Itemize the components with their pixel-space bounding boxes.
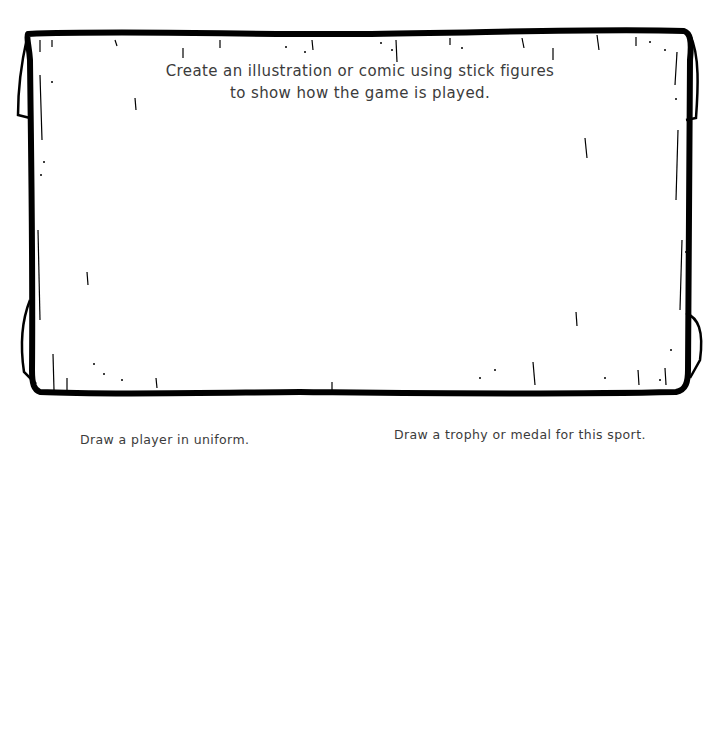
trophy-drawing-area [372, 408, 690, 712]
top-prompt-line-2: to show how the game is played. [0, 82, 720, 104]
top-prompt-line-1: Create an illustration or comic using st… [0, 60, 720, 82]
top-panel-prompt: Create an illustration or comic using st… [0, 60, 720, 104]
player-panel-prompt: Draw a player in uniform. [80, 432, 249, 447]
trophy-panel-prompt: Draw a trophy or medal for this sport. [394, 427, 646, 442]
player-drawing-area [30, 412, 322, 712]
